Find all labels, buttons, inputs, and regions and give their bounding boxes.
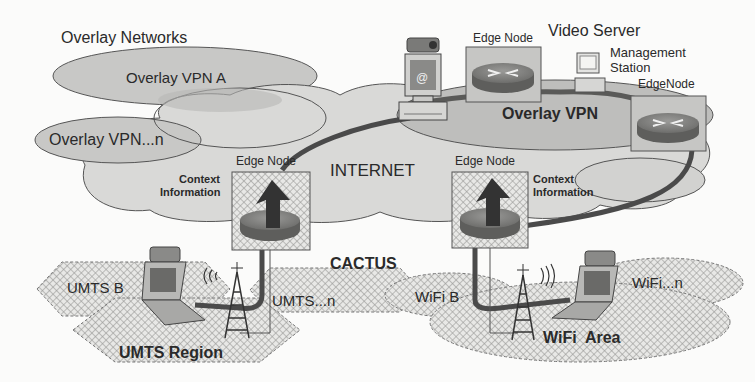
edge-node-right-label: EdgeNode [638, 78, 695, 90]
edge-node-top [466, 47, 541, 102]
wifi-b-label: WiFi B [415, 289, 459, 304]
edge-node-wifi [452, 172, 528, 248]
cactus-label: CACTUS [330, 256, 397, 272]
overlay-vpn-a-overlap [158, 88, 282, 112]
edge-node-wifi-label: Edge Node [455, 155, 515, 167]
video-server-label: Video Server [548, 23, 640, 39]
context-left-line-1: Context [160, 173, 220, 186]
context-left-line-2: Information [160, 186, 220, 199]
context-right-line-1: Context [533, 173, 594, 186]
svg-text:@: @ [416, 71, 428, 85]
wifi-area-label: WiFi Area [543, 330, 621, 346]
context-right-line-2: Information [533, 186, 594, 199]
edge-node-right [631, 96, 706, 151]
internet-label: INTERNET [330, 162, 415, 179]
management-line-1: Management [610, 45, 686, 60]
overlay-vpn-n-label: Overlay VPN...n [49, 132, 164, 148]
context-information-right: Context Information [533, 173, 594, 199]
overlay-vpn-label: Overlay VPN [502, 106, 598, 122]
edge-node-top-label: Edge Node [473, 32, 533, 44]
context-ellipse-right [575, 158, 705, 202]
overlay-vpn-a-label: Overlay VPN A [126, 70, 226, 85]
wifi-n-label: WiFi...n [632, 275, 683, 290]
umts-b-label: UMTS B [67, 280, 124, 295]
video-server-computer: @ [399, 38, 447, 120]
edge-node-umts-label: Edge Node [236, 155, 296, 167]
management-line-2: Station [610, 60, 686, 75]
umts-region-label: UMTS Region [119, 345, 223, 361]
context-information-left: Context Information [160, 173, 220, 199]
edge-node-umts [232, 172, 310, 250]
umts-n-label: UMTS...n [272, 293, 335, 308]
overlay-networks-title: Overlay Networks [61, 30, 187, 46]
management-station-label: Management Station [610, 45, 686, 75]
management-station [575, 53, 605, 92]
